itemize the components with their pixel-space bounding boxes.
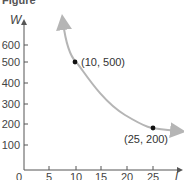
inverse-curve bbox=[63, 22, 178, 131]
y-tick-600: 600 bbox=[2, 39, 20, 51]
point-10-500 bbox=[73, 60, 78, 65]
x-tick-20: 20 bbox=[121, 171, 133, 180]
point-25-200 bbox=[151, 126, 156, 131]
origin-label: 0 bbox=[16, 171, 22, 180]
x-tick-15: 15 bbox=[95, 171, 107, 180]
y-axis-label: W bbox=[10, 13, 23, 27]
y-tick-200: 200 bbox=[2, 118, 20, 130]
y-tick-300: 300 bbox=[2, 98, 20, 110]
x-tick-5: 5 bbox=[46, 171, 52, 180]
x-ticks bbox=[49, 166, 153, 170]
y-ticks bbox=[24, 45, 28, 145]
point-label-10-500: (10, 500) bbox=[81, 56, 125, 68]
y-tick-100: 100 bbox=[2, 139, 20, 151]
y-tick-400: 400 bbox=[2, 77, 20, 89]
x-tick-25: 25 bbox=[147, 171, 159, 180]
inverse-variation-chart: 600 500 400 300 200 100 0 5 10 15 20 25 … bbox=[0, 0, 184, 180]
y-tick-500: 500 bbox=[2, 56, 20, 68]
x-tick-10: 10 bbox=[70, 171, 82, 180]
point-label-25-200: (25, 200) bbox=[124, 133, 168, 145]
x-axis-label: l bbox=[175, 170, 178, 180]
